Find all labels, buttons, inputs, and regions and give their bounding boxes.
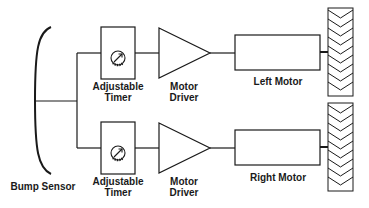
timer-top-label-line1: Adjustable xyxy=(92,81,143,92)
timer-bottom-label-line1: Adjustable xyxy=(92,176,143,187)
driver-top-label-line1: Motor xyxy=(170,81,199,92)
amplifier-triangle-icon xyxy=(159,123,210,173)
timer-bottom-label-line2: Timer xyxy=(92,187,143,198)
tread-wheel-icon xyxy=(328,8,353,96)
timer-top-label: Adjustable Timer xyxy=(92,81,143,103)
driver-bottom-label-line1: Motor xyxy=(170,176,199,187)
timer-top-label-line2: Timer xyxy=(92,92,143,103)
driver-bottom-label: Motor Driver xyxy=(170,176,199,198)
driver-top-label-line2: Driver xyxy=(170,92,199,103)
right-motor-label: Right Motor xyxy=(250,172,306,183)
amplifier-triangle-icon xyxy=(159,28,210,78)
timer-top-box xyxy=(101,27,135,79)
timer-bottom-label: Adjustable Timer xyxy=(92,176,143,198)
tread-wheel-icon xyxy=(328,103,353,191)
timer-bottom-box xyxy=(101,122,135,174)
dial-knob-icon xyxy=(111,146,125,160)
dial-knob-icon xyxy=(111,51,125,65)
driver-top-label: Motor Driver xyxy=(170,81,199,103)
right-motor-box xyxy=(235,130,320,165)
driver-bottom-label-line2: Driver xyxy=(170,187,199,198)
left-motor-box xyxy=(235,35,320,70)
bump-sensor-label: Bump Sensor xyxy=(10,181,75,192)
left-motor-label: Left Motor xyxy=(254,76,303,87)
